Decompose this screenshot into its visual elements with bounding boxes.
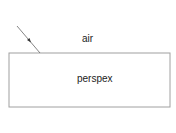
refraction-diagram: air perspex (0, 0, 176, 133)
air-label: air (82, 33, 93, 44)
perspex-label: perspex (77, 73, 113, 84)
diagram-graphics (0, 0, 176, 133)
